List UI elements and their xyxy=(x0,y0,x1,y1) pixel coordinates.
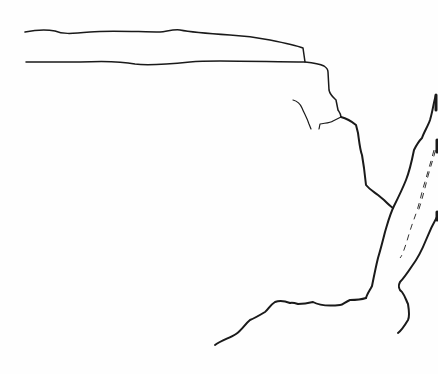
river-left-bank xyxy=(366,95,436,298)
short-branch-line-2 xyxy=(319,117,341,129)
river-dashed-channel-2 xyxy=(418,140,438,212)
bottom-boundary-line xyxy=(215,298,366,345)
map-drawing xyxy=(0,0,438,374)
map-sketch xyxy=(0,0,438,374)
lower-boundary-line xyxy=(26,61,341,117)
vertical-boundary-line xyxy=(341,117,393,208)
upper-boundary-line xyxy=(25,30,305,62)
short-branch-line xyxy=(293,100,311,129)
river-dashed-channel xyxy=(400,150,434,258)
river-right-bank xyxy=(398,215,438,333)
